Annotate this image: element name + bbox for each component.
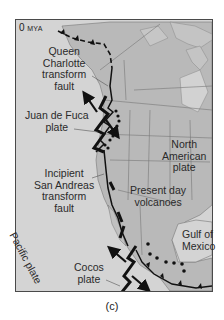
juan-de-fuca-label: Juan de Fuca plate	[25, 110, 89, 133]
san-andreas-label: Incipient San Andreas transform fault	[34, 168, 94, 214]
north-american-plate-label: North American plate	[162, 139, 206, 174]
figure-caption: (c)	[0, 300, 224, 312]
gulf-of-mexico-label: Gulf of Mexico	[182, 229, 215, 252]
era-label: 0 MYA	[19, 22, 43, 33]
cocos-plate-label: Cocos plate	[74, 262, 104, 285]
volcanoes-label: Present day volcanoes	[130, 185, 186, 208]
queen-charlotte-label: Queen Charlotte transform fault	[42, 46, 86, 92]
